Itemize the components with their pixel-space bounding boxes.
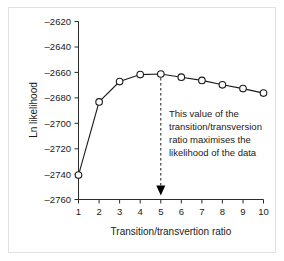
data-point [178, 74, 185, 81]
annotation-line: ratio maximises the [169, 134, 251, 145]
y-tick-label: –2700 [45, 118, 71, 129]
y-tick-label: –2620 [45, 16, 71, 27]
annotation-line: This value of the [169, 108, 239, 119]
y-axis-title: Ln likelihood [28, 82, 39, 138]
data-point [219, 82, 226, 89]
data-point [96, 99, 103, 106]
x-tick-label: 8 [220, 206, 225, 217]
data-point [199, 77, 206, 84]
annotation-callout: This value of the transition/transversio… [169, 108, 262, 158]
x-tick-label: 10 [258, 206, 269, 217]
x-tick-label: 5 [158, 206, 163, 217]
x-tick-label: 2 [96, 206, 101, 217]
max-likelihood-guide [156, 73, 165, 196]
down-arrow-icon [156, 186, 165, 196]
chart-figure: –2620 –2640 –2660 –2680 –2700 –2720 –274… [0, 0, 284, 261]
y-tick-labels: –2620 –2640 –2660 –2680 –2700 –2720 –274… [45, 16, 71, 205]
annotation-line: likelihood of the data [169, 147, 257, 158]
x-tick-label: 4 [138, 206, 143, 217]
x-tick-label: 9 [240, 206, 245, 217]
y-tick-label: –2720 [45, 143, 71, 154]
x-tick-marks [79, 200, 264, 204]
y-tick-label: –2680 [45, 92, 71, 103]
y-tick-label: –2740 [45, 169, 71, 180]
y-tick-label: –2660 [45, 67, 71, 78]
x-tick-label: 3 [117, 206, 122, 217]
data-point [158, 71, 165, 78]
data-point [116, 78, 123, 85]
y-tick-label: –2760 [45, 194, 71, 205]
x-axis-title: Transition/transvertion ratio [111, 226, 232, 237]
annotation-line: transition/transversion [169, 121, 262, 132]
data-point [75, 172, 82, 179]
x-tick-labels: 1 2 3 4 5 6 7 8 9 10 [76, 206, 269, 217]
y-tick-label: –2640 [45, 41, 71, 52]
x-tick-label: 1 [76, 206, 81, 217]
data-point [240, 85, 247, 92]
data-point [137, 71, 144, 78]
likelihood-line-chart: –2620 –2640 –2660 –2680 –2700 –2720 –274… [0, 0, 284, 261]
x-tick-label: 7 [199, 206, 204, 217]
data-point [260, 90, 267, 97]
x-tick-label: 6 [179, 206, 184, 217]
